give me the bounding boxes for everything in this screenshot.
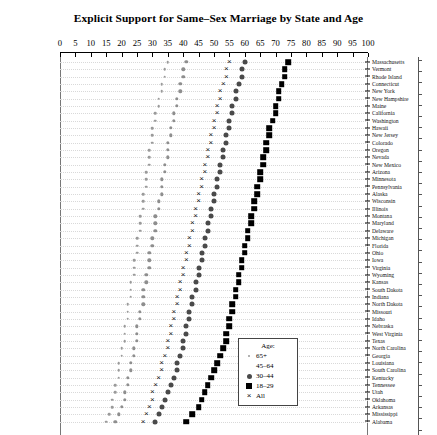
state-label-alabama: Alabama xyxy=(365,418,392,425)
state-label-illinois: Illinois xyxy=(365,205,388,212)
gridline xyxy=(60,238,368,240)
state-label-alaska: Alaska xyxy=(365,191,388,198)
right-axis-tick xyxy=(418,284,422,285)
state-label-south-carolina: South Carolina xyxy=(365,367,406,374)
data-point xyxy=(157,105,160,108)
legend-item-30-44[interactable]: 30–44 xyxy=(243,371,293,381)
state-label-utah: Utah xyxy=(365,389,383,396)
state-label-california: California xyxy=(365,110,395,117)
data-point xyxy=(236,279,242,285)
tick-dash-icon xyxy=(365,61,370,62)
data-point xyxy=(145,185,148,188)
legend-item-all[interactable]: ×All xyxy=(243,391,293,401)
gridline xyxy=(60,297,368,299)
marker-glyph xyxy=(248,355,251,358)
data-point xyxy=(218,162,223,167)
state-name: Virginia xyxy=(372,265,390,271)
data-point xyxy=(248,221,254,227)
data-point xyxy=(111,406,114,409)
data-point xyxy=(148,156,151,159)
data-point xyxy=(151,141,154,144)
state-label-montana: Montana xyxy=(365,213,392,220)
x-axis-tick-label: 80 xyxy=(302,38,311,48)
legend-label: 30–44 xyxy=(255,372,274,380)
gridline xyxy=(60,216,368,218)
data-point xyxy=(264,147,270,153)
data-point xyxy=(251,206,257,212)
x-axis-tick-label: 50 xyxy=(210,38,219,48)
right-axis-tick xyxy=(418,396,422,397)
x-axis-tick-label: 35 xyxy=(164,38,173,48)
state-name: Michigan xyxy=(372,235,393,241)
data-point xyxy=(227,323,233,329)
state-name: Mississippi xyxy=(372,412,398,418)
data-point xyxy=(175,360,180,365)
tick-dash-icon xyxy=(365,414,370,415)
tick-dash-icon xyxy=(365,296,370,297)
tick-dash-icon xyxy=(365,384,370,385)
gridline xyxy=(60,348,368,350)
data-point xyxy=(133,259,136,262)
state-label-tennessee: Tennessee xyxy=(365,381,395,388)
gridline xyxy=(60,290,368,292)
right-axis-tick xyxy=(418,206,422,207)
data-point xyxy=(160,90,163,93)
legend-item-45-64[interactable]: 45–64 xyxy=(243,361,293,371)
legend[interactable]: Age: 65+45–6430–4418–29×All xyxy=(238,338,298,406)
state-label-colorado: Colorado xyxy=(365,139,393,146)
legend-item-65-[interactable]: 65+ xyxy=(243,351,293,361)
data-point xyxy=(175,368,180,373)
tick-dash-icon xyxy=(365,171,370,172)
data-point xyxy=(123,325,126,328)
gridline xyxy=(60,356,368,358)
x-axis-tick-label: 70 xyxy=(271,38,280,48)
data-point xyxy=(136,252,139,255)
right-axis-tick xyxy=(418,430,422,431)
data-point xyxy=(239,74,244,79)
gridline xyxy=(60,84,368,86)
gridline xyxy=(60,334,368,336)
right-axis-line xyxy=(418,57,419,435)
gridline xyxy=(60,260,368,262)
gridline xyxy=(60,253,368,255)
x-axis-line xyxy=(60,52,368,53)
x-axis-tick-label: 30 xyxy=(148,38,157,48)
state-label-new-mexico: New Mexico xyxy=(365,161,401,168)
gridline xyxy=(60,326,368,328)
data-point xyxy=(117,369,120,372)
data-point xyxy=(117,376,120,379)
tick-dash-icon xyxy=(365,208,370,209)
data-point xyxy=(190,294,195,299)
marker-glyph xyxy=(247,374,252,379)
state-label-missouri: Missouri xyxy=(365,308,392,315)
x-axis-tick-label: 55 xyxy=(225,38,234,48)
data-point xyxy=(224,133,229,138)
state-name: South Dakota xyxy=(372,287,403,293)
data-point xyxy=(205,382,211,388)
legend-label: 45–64 xyxy=(255,362,274,370)
tick-dash-icon xyxy=(365,113,370,114)
tick-dash-icon xyxy=(365,193,370,194)
data-point xyxy=(242,243,248,249)
legend-item-18-29[interactable]: 18–29 xyxy=(243,381,293,391)
state-label-wyoming: Wyoming xyxy=(365,271,394,278)
state-label-new-york: New York xyxy=(365,88,395,95)
legend-label: 65+ xyxy=(255,352,267,360)
data-point xyxy=(212,192,217,197)
data-point xyxy=(142,193,145,196)
gridline xyxy=(60,400,368,402)
state-name: New York xyxy=(372,89,395,95)
right-axis-tick xyxy=(418,262,422,263)
state-label-oklahoma: Oklahoma xyxy=(365,396,395,403)
tick-dash-icon xyxy=(365,245,370,246)
right-axis-tick xyxy=(418,295,422,296)
right-axis-tick xyxy=(418,161,422,162)
right-axis-tick xyxy=(418,407,422,408)
gridline xyxy=(60,268,368,270)
x-axis-tick-label: 45 xyxy=(194,38,203,48)
data-point xyxy=(123,340,126,343)
state-label-wisconsin: Wisconsin xyxy=(365,198,395,205)
data-point xyxy=(227,118,232,123)
state-name: Alaska xyxy=(372,191,388,197)
tick-dash-icon xyxy=(365,98,370,99)
